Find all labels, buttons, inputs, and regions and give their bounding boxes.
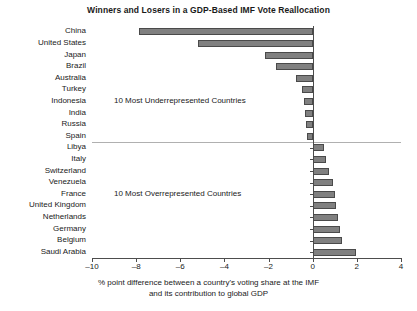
bar [265, 52, 312, 59]
group-annotation: 10 Most Underrepresented Countries [114, 96, 246, 105]
y-axis-tick-label: Venezuela [49, 177, 86, 186]
x-axis-tick-label: 4 [386, 262, 416, 271]
bar [313, 168, 330, 175]
y-axis-tick-label: Germany [53, 224, 86, 233]
bar [313, 237, 343, 244]
x-axis-tick-label: 2 [342, 262, 372, 271]
y-axis-tick-label: Saudi Arabia [41, 247, 86, 256]
chart-title: Winners and Losers in a GDP-Based IMF Vo… [0, 5, 417, 15]
bar [313, 214, 338, 221]
y-axis-tick-label: Italy [71, 154, 86, 163]
zero-axis-line [313, 26, 314, 258]
plot-area: 10 Most Underrepresented Countries10 Mos… [92, 26, 401, 258]
bar [296, 75, 313, 82]
bar [307, 133, 313, 140]
group-annotation: 10 Most Overrepresented Countries [114, 189, 241, 198]
x-axis-tick-label: –4 [209, 262, 239, 271]
bar [305, 110, 313, 117]
y-axis-tick-label: Indonesia [51, 96, 86, 105]
y-axis-tick-label: Belgium [57, 235, 86, 244]
bar [313, 249, 356, 256]
bar [313, 202, 336, 209]
y-axis-tick-label: Turkey [62, 84, 86, 93]
bar [304, 98, 313, 105]
y-axis-tick-label: Libya [67, 142, 86, 151]
bar [313, 191, 335, 198]
bar [302, 86, 313, 93]
y-axis-tick-label: Netherlands [43, 212, 86, 221]
y-axis-tick-label: Brazil [66, 61, 86, 70]
x-axis: –10–8–6–4–2024 [92, 258, 401, 274]
y-axis-tick-label: Australia [55, 73, 86, 82]
x-axis-tick-label: –2 [254, 262, 284, 271]
bar [139, 28, 312, 35]
bar [313, 179, 333, 186]
y-axis-tick-label: Spain [66, 131, 86, 140]
bar [198, 40, 313, 47]
group-divider [92, 142, 401, 143]
x-axis-label-line1: % point difference between a country's v… [0, 277, 417, 288]
x-axis-label: % point difference between a country's v… [0, 277, 417, 299]
y-axis-tick-label: United States [38, 38, 86, 47]
x-axis-tick-label: –8 [121, 262, 151, 271]
bar [306, 121, 313, 128]
y-axis-tick-label: Japan [64, 50, 86, 59]
x-axis-tick-label: –6 [165, 262, 195, 271]
y-axis-tick-label: China [65, 26, 86, 35]
x-axis-tick-label: –10 [77, 262, 107, 271]
y-axis-tick-label: Switzerland [45, 166, 86, 175]
y-axis-labels: ChinaUnited StatesJapanBrazilAustraliaTu… [0, 26, 86, 258]
bar [313, 226, 341, 233]
bar [313, 156, 326, 163]
bar [313, 144, 324, 151]
x-axis-label-line2: and its contribution to global GDP [0, 288, 417, 299]
y-axis-tick-label: India [69, 108, 86, 117]
chart-figure: Winners and Losers in a GDP-Based IMF Vo… [0, 0, 417, 311]
y-axis-tick-label: United Kingdom [29, 200, 86, 209]
bar [276, 63, 312, 70]
y-axis-tick-label: Russia [62, 119, 86, 128]
y-axis-tick-label: France [61, 189, 86, 198]
x-axis-tick-label: 0 [298, 262, 328, 271]
